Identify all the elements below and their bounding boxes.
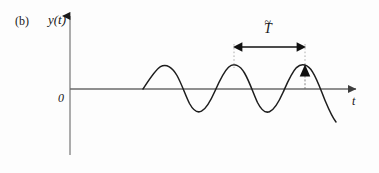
panel-label: (b) [15, 15, 29, 27]
waveform-figure: (b) y(t) 0 t ~T [0, 0, 379, 173]
period-label: ~T [264, 22, 272, 36]
origin-label: 0 [58, 92, 64, 104]
axes-group [70, 16, 356, 155]
period-annotation-group [233, 42, 306, 68]
t-axis-label: t [352, 95, 355, 107]
period-symbol-wrap: ~T [264, 22, 272, 36]
tilde-accent: ~ [265, 16, 272, 28]
period-arrowhead-right [297, 42, 306, 51]
y-axis-label: y(t) [48, 13, 66, 26]
period-arrowhead-left [233, 42, 242, 51]
